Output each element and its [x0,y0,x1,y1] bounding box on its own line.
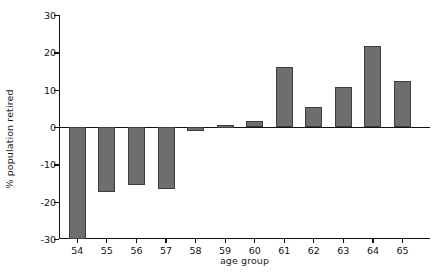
x-axis-line [59,238,430,239]
bar [335,87,352,127]
x-tick-mark [372,238,373,243]
bar [69,127,86,239]
x-tick-mark [284,238,285,243]
x-axis-title: age group [59,255,430,266]
y-tick-label: 20 [44,47,56,58]
bar [128,127,145,185]
bar [246,121,263,127]
bar [158,127,175,189]
x-tick-mark [254,238,255,243]
bar [276,67,293,127]
y-tick-label: -30 [40,234,56,245]
x-tick-mark [225,238,226,243]
y-tick-label: 10 [44,84,56,95]
y-tick-label: 30 [44,10,56,21]
x-tick-mark [106,238,107,243]
bar-chart: % population retired 3020100-10-20-30 54… [0,0,437,278]
bar [187,127,204,131]
plot-area: 3020100-10-20-30 54555657585960616263646… [59,15,430,239]
y-tick-label: 0 [50,122,56,133]
bar [217,125,234,128]
x-tick-mark [343,238,344,243]
y-axis-title: % population retired [0,0,18,278]
x-tick-mark [165,238,166,243]
x-tick-mark [136,238,137,243]
bar [305,107,322,127]
x-tick-mark [313,238,314,243]
bar [98,127,115,192]
y-tick-label: -20 [40,196,56,207]
bar [394,81,411,127]
x-tick-mark [195,238,196,243]
y-tick-label: -10 [40,159,56,170]
x-tick-mark [402,238,403,243]
bar [364,46,381,127]
